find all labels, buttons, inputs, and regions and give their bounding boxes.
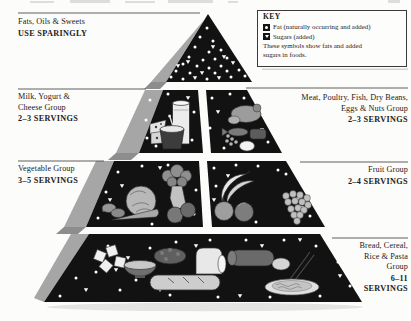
fats-group-name: Fats, Oils & Sweets (18, 17, 87, 28)
food-pyramid-diagram: Fats, Oils & Sweets USE SPARINGLY Milk, … (0, 0, 411, 321)
meat-group-label: Meat, Poultry, Fish, Dry Beans, Eggs & N… (301, 93, 408, 126)
fat-symbol-icon (263, 24, 270, 31)
fruit-group-label: Fruit Group 2–4 SERVINGS (348, 165, 408, 187)
milk-group-name-line2: Cheese Group (18, 103, 78, 114)
bread-group-name-line2: Rice & Pasta (360, 252, 408, 263)
key-sugars-row: Sugars (added) (263, 33, 401, 42)
key-fat-row: Fat (naturally occurring and added) (263, 23, 401, 32)
bread-group-name-line1: Bread, Cereal, (360, 241, 408, 252)
milk-servings: 2–3 SERVINGS (18, 114, 78, 125)
key-note-line2: sugars in foods. (263, 51, 401, 59)
side-face-tab-1 (144, 82, 167, 89)
keybox-shadow (262, 69, 408, 71)
key-note-line1: These symbols show fats and added (263, 42, 401, 50)
bread-servings-line2: SERVINGS (360, 284, 408, 295)
key-title: KEY (263, 13, 401, 22)
key-box: KEY Fat (naturally occurring and added) … (257, 10, 407, 67)
milk-group-name-line1: Milk, Yogurt & (18, 92, 78, 103)
bread-servings-line1: 6–11 (360, 274, 408, 285)
vegetable-group-name: Vegetable Group (18, 164, 78, 175)
fats-group-label: Fats, Oils & Sweets USE SPARINGLY (18, 17, 87, 39)
vegetable-group-label: Vegetable Group 3–5 SERVINGS (18, 164, 78, 186)
vegetable-servings: 3–5 SERVINGS (18, 176, 78, 187)
fats-advice: USE SPARINGLY (18, 29, 87, 40)
side-face-tab-2 (108, 153, 139, 160)
meat-group-name-line1: Meat, Poultry, Fish, Dry Beans, (301, 93, 408, 104)
bread-group-name-line3: Group (360, 262, 408, 273)
meat-servings: 2–3 SERVINGS (301, 115, 408, 126)
tier-fats-face (166, 14, 252, 82)
pyramid-shadow (47, 303, 363, 311)
sugars-symbol-icon (263, 33, 270, 40)
milk-group-label: Milk, Yogurt & Cheese Group 2–3 SERVINGS (18, 92, 78, 125)
cropped-caption-fragments (30, 0, 400, 3)
fruit-group-name: Fruit Group (348, 165, 408, 176)
meat-group-name-line2: Eggs & Nuts Group (301, 104, 408, 115)
fruit-servings: 2–4 SERVINGS (348, 177, 408, 188)
key-fat-label: Fat (naturally occurring and added) (273, 23, 371, 32)
bread-group-label: Bread, Cereal, Rice & Pasta Group 6–11 S… (360, 241, 408, 295)
key-sugars-label: Sugars (added) (273, 33, 315, 42)
side-face-tab-3 (56, 227, 86, 234)
